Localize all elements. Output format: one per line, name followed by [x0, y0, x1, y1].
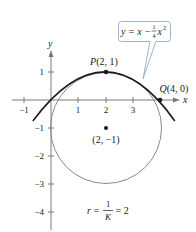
radius-formula: r = 1 K = 2: [87, 199, 129, 222]
point-p-label: P(2, 1): [89, 56, 118, 68]
x-axis-arrow-icon: [173, 98, 180, 103]
point-q-label: Q(4, 0): [160, 83, 189, 95]
equation-callout: y = x − 1 4 x 2: [119, 22, 171, 80]
callout-equation: y = x −: [120, 26, 151, 37]
callout-frac-den: 4: [153, 33, 156, 39]
callout-rhs-var: x: [157, 26, 163, 37]
y-tick-label: −2: [34, 151, 44, 161]
center-label: (2, −1): [92, 134, 119, 146]
y-tick-label: −1: [34, 123, 44, 133]
point-center: [104, 126, 108, 130]
callout-pointer: [143, 41, 156, 79]
curvature-diagram: −1 1 2 3 1 −1 −2 −3 −4 x y P(2, 1) Q(4, …: [0, 0, 196, 232]
radius-frac-den: K: [104, 212, 112, 222]
y-axis-arrow-icon: [49, 50, 54, 57]
y-tick-label: 1: [40, 67, 45, 77]
y-tick-label: −3: [34, 179, 44, 189]
callout-rhs-exp: 2: [163, 24, 166, 31]
x-tick-label: 2: [104, 105, 109, 115]
point-q: [158, 98, 163, 103]
y-axis-label: y: [47, 38, 53, 49]
x-tick-label: 3: [131, 105, 136, 115]
point-p: [104, 70, 109, 75]
x-axis-label: x: [182, 94, 188, 105]
radius-lhs: r =: [87, 205, 99, 216]
callout-frac-num: 1: [153, 24, 156, 30]
x-tick-label: −1: [19, 105, 29, 115]
radius-rhs: = 2: [113, 205, 129, 216]
x-tick-label: 1: [76, 105, 81, 115]
radius-frac-num: 1: [106, 199, 110, 209]
y-tick-label: −4: [34, 207, 44, 217]
